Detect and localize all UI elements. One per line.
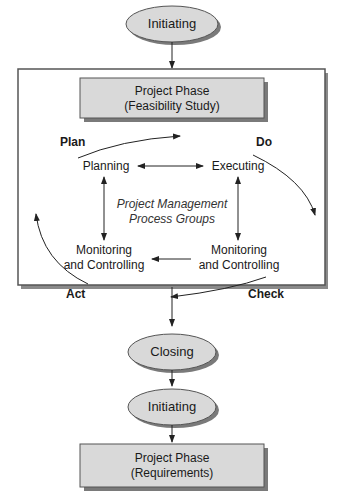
diagram-canvas [0, 0, 342, 501]
monitoring-right-line1: Monitoring [192, 243, 286, 258]
check-label: Check [248, 287, 288, 302]
closing-label: Closing [128, 344, 216, 359]
initiating-2-label: Initiating [128, 399, 216, 414]
center-label-line1: Project Management [110, 197, 234, 212]
phase-box-1-line2: (Feasibility Study) [80, 99, 264, 114]
initiating-label: Initiating [126, 16, 218, 31]
center-label-line2: Process Groups [110, 212, 234, 227]
phase-box-2-line2: (Requirements) [80, 466, 264, 481]
monitoring-right-line2: and Controlling [192, 258, 286, 273]
phase-box-2-line1: Project Phase [80, 451, 264, 466]
executing-label: Executing [206, 159, 270, 174]
plan-label: Plan [60, 135, 100, 150]
do-label: Do [256, 135, 286, 150]
planning-label: Planning [76, 159, 136, 174]
monitoring-left-line2: and Controlling [58, 258, 150, 273]
monitoring-left-line1: Monitoring [58, 243, 150, 258]
phase-box-1-line1: Project Phase [80, 84, 264, 99]
act-label: Act [66, 287, 96, 302]
